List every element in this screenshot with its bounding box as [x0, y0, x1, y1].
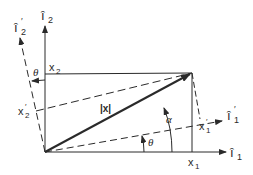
svg-text:x: x: [18, 105, 24, 117]
theta-top-arc: [32, 80, 45, 81]
theta-bottom-label: θ: [148, 136, 154, 148]
x1-prime-projection-line: [192, 73, 200, 119]
svg-text:x: x: [199, 120, 205, 132]
theta-bottom-arc: [142, 136, 144, 152]
i2-prime-axis-label: î ′ 2: [13, 16, 26, 37]
i2-prime-axis: [20, 38, 45, 152]
svg-text:′: ′: [21, 16, 23, 26]
svg-text:1: 1: [206, 126, 211, 135]
x2-projection-line: [45, 73, 192, 74]
i1-prime-axis-label: î ′ 1: [226, 104, 239, 125]
i1-prime-axis: [45, 121, 222, 152]
theta-top-label: θ: [33, 66, 39, 78]
x1-label: x 1: [188, 156, 200, 171]
rotated-axes-diagram: î 2 î ′ 2 î 1 î ′ 1 x 2 x ′ 2 x 1 x ′ 1 …: [0, 0, 253, 175]
vector-magnitude-label: |x|: [100, 103, 111, 114]
x2-prime-label: x ′ 2: [18, 102, 30, 120]
i1-axis-label: î 1: [229, 145, 242, 162]
i2-axis-label: î 2: [40, 8, 53, 25]
svg-text:1: 1: [195, 162, 200, 171]
svg-text:x: x: [188, 156, 194, 168]
svg-text:2: 2: [25, 111, 30, 120]
svg-text:′: ′: [234, 104, 236, 114]
svg-text:î: î: [226, 108, 231, 123]
svg-text:2: 2: [48, 15, 53, 25]
svg-text:2: 2: [56, 67, 61, 76]
svg-text:x: x: [49, 61, 55, 73]
svg-text:1: 1: [237, 152, 242, 162]
svg-text:î: î: [229, 145, 234, 160]
svg-text:′: ′: [206, 117, 208, 126]
svg-text:1: 1: [234, 115, 239, 125]
svg-text:î: î: [13, 20, 18, 35]
x2-prime-projection-line: [36, 73, 192, 111]
x1-prime-label: x ′ 1: [199, 117, 211, 135]
svg-text:2: 2: [21, 27, 26, 37]
svg-text:î: î: [40, 8, 45, 23]
alpha-label: α: [166, 113, 172, 125]
svg-text:′: ′: [25, 102, 27, 111]
